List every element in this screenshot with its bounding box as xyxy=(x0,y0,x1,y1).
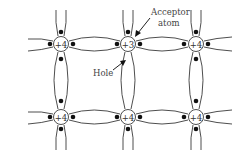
bond xyxy=(136,47,188,51)
atom-label: +4 xyxy=(190,113,203,123)
bond xyxy=(136,110,188,114)
electron xyxy=(115,115,120,120)
electron xyxy=(71,42,76,47)
electron xyxy=(48,115,53,120)
bond-stub xyxy=(191,10,193,36)
electron xyxy=(138,42,143,47)
bond-stub xyxy=(204,47,232,51)
electron xyxy=(126,30,131,35)
electron xyxy=(59,99,64,104)
atom-label: +4 xyxy=(122,113,135,123)
electron xyxy=(206,42,211,47)
electron xyxy=(138,115,143,120)
bond xyxy=(136,37,188,41)
bond-stub xyxy=(131,10,133,36)
atom-label: +3 xyxy=(122,40,135,50)
electron xyxy=(59,30,64,35)
atom-acceptor: +3 xyxy=(121,37,136,52)
atom-label: +4 xyxy=(55,40,68,50)
atom-a00: +4 xyxy=(54,37,69,52)
electron xyxy=(182,42,187,47)
bond-stub xyxy=(123,10,125,36)
electron xyxy=(194,99,199,104)
bond-stub xyxy=(64,125,66,150)
bond-stub xyxy=(28,39,53,41)
bond-stub xyxy=(28,112,53,114)
lattice-diagram: +4 +3 +4 +4 +4 +4 Acceptor atom Hole xyxy=(0,0,246,157)
hole-arrow xyxy=(113,63,122,70)
bond-stub xyxy=(64,10,66,36)
bond xyxy=(69,47,120,51)
electron xyxy=(115,42,120,47)
electron xyxy=(182,115,187,120)
bond xyxy=(69,37,120,41)
electron xyxy=(194,127,199,132)
hole-arrow-head xyxy=(120,60,126,66)
acceptor-label-line1: Acceptor xyxy=(150,7,191,17)
bond xyxy=(69,110,120,114)
bond-stub xyxy=(199,125,201,150)
bond xyxy=(189,52,193,109)
bond xyxy=(131,52,135,109)
bond-stub xyxy=(28,47,53,51)
hole-label: Hole xyxy=(93,68,113,78)
acceptor-arrow xyxy=(138,18,150,33)
bond xyxy=(199,52,203,109)
bond-stub xyxy=(56,125,58,150)
atoms: +4 +3 +4 +4 +4 +4 xyxy=(54,37,204,125)
acceptor-label-line2: atom xyxy=(158,18,180,28)
atom-a10: +4 xyxy=(54,110,69,125)
electron xyxy=(206,115,211,120)
atom-label: +4 xyxy=(190,40,203,50)
electron xyxy=(59,57,64,62)
bond-stub xyxy=(204,120,232,124)
bond-stub xyxy=(199,10,201,36)
electron xyxy=(48,42,53,47)
bond-stub xyxy=(204,110,232,114)
bond xyxy=(136,120,188,124)
atom-a11: +4 xyxy=(121,110,136,125)
electron xyxy=(126,127,131,132)
bond-stub xyxy=(131,125,133,150)
bond-stub xyxy=(56,10,58,36)
electron xyxy=(194,30,199,35)
annotations: Acceptor atom Hole xyxy=(93,7,191,78)
bond-stub xyxy=(204,37,232,41)
bond-stub xyxy=(28,120,53,124)
electron xyxy=(71,115,76,120)
electron xyxy=(194,57,199,62)
atom-label: +4 xyxy=(55,113,68,123)
atom-a12: +4 xyxy=(189,110,204,125)
bond xyxy=(69,120,120,124)
electron xyxy=(59,127,64,132)
bond xyxy=(64,52,68,109)
bond-stub xyxy=(123,125,125,150)
bond-stub xyxy=(191,125,193,150)
atom-a02: +4 xyxy=(189,37,204,52)
bond xyxy=(54,52,58,109)
